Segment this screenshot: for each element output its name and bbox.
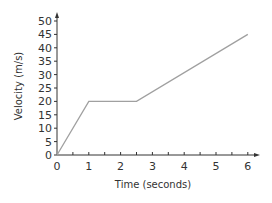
velocity-line — [57, 34, 248, 155]
x-tick-label: 0 — [54, 160, 61, 173]
y-tick-label: 45 — [38, 28, 52, 41]
velocity-time-chart: 05101520253035404550 0123456 Time (secon… — [0, 0, 272, 203]
y-tick-label: 10 — [38, 122, 52, 135]
x-axis-arrow-icon — [254, 153, 260, 157]
y-axis-ticks: 05101520253035404550 — [38, 15, 57, 162]
x-tick-label: 1 — [85, 160, 92, 173]
y-tick-label: 5 — [45, 136, 52, 149]
x-tick-label: 6 — [244, 160, 251, 173]
x-axis-title: Time (seconds) — [114, 179, 191, 190]
y-tick-label: 0 — [45, 149, 52, 162]
y-tick-label: 25 — [38, 82, 52, 95]
x-tick-label: 5 — [213, 160, 220, 173]
y-tick-label: 15 — [38, 109, 52, 122]
y-tick-label: 35 — [38, 55, 52, 68]
x-tick-label: 2 — [117, 160, 124, 173]
y-tick-label: 20 — [38, 95, 52, 108]
y-tick-label: 40 — [38, 42, 52, 55]
y-tick-label: 30 — [38, 69, 52, 82]
y-tick-label: 50 — [38, 15, 52, 28]
y-axis-title: Velocity (m/s) — [13, 52, 24, 121]
y-axis-arrow-icon — [55, 12, 59, 18]
x-tick-label: 3 — [149, 160, 156, 173]
x-tick-label: 4 — [181, 160, 188, 173]
